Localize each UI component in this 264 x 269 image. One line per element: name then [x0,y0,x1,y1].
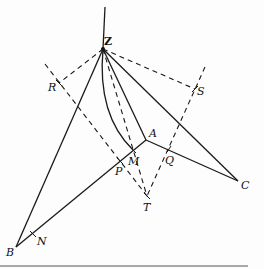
line-zs [103,49,195,89]
label-a: A [148,127,157,140]
label-c: C [241,179,250,192]
line-ac [146,140,238,181]
label-r: R [47,81,56,94]
geometry-figure: Z R S A M P Q T C B N [0,0,264,269]
diagram-canvas: Z R S A M P Q T C B N [0,0,264,269]
line-zb [16,49,103,247]
line-zr [59,49,103,83]
label-m: M [127,155,140,168]
tick-t [144,193,150,199]
tick-r [56,80,62,86]
label-s: S [197,85,205,98]
label-t: T [143,201,152,214]
label-p: P [114,165,123,178]
line-ab [16,140,146,247]
label-b: B [5,246,14,259]
line-za [103,49,146,140]
label-q: Q [165,154,174,167]
label-n: N [36,235,47,248]
label-z: Z [104,35,112,48]
